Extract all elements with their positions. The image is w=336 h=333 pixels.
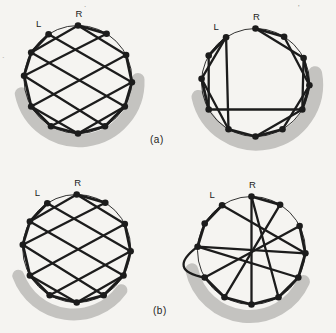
- graph-node-6: [73, 299, 80, 306]
- graph-node-10: [28, 49, 35, 56]
- graph-node-3: [306, 82, 313, 89]
- graph-edge: [298, 253, 305, 277]
- graph-node-4: [299, 106, 306, 113]
- graph-edge: [252, 297, 279, 304]
- graph-edge: [226, 37, 228, 129]
- graph-node-9: [194, 243, 201, 250]
- label-left: L: [35, 187, 40, 198]
- graph-node-4: [295, 274, 302, 281]
- graph-node-7: [46, 292, 53, 299]
- graph-node-11: [219, 202, 226, 209]
- graph-edge: [77, 195, 106, 203]
- graph-node-7: [225, 126, 232, 133]
- graph-node-8: [201, 274, 208, 281]
- graph-node-2: [300, 55, 307, 62]
- graph-node-6: [248, 301, 255, 308]
- graph-node-8: [27, 272, 34, 279]
- graph-node-11: [44, 200, 51, 207]
- graph-node-10: [27, 218, 34, 225]
- graph-node-0: [73, 191, 80, 198]
- graph-node-8: [28, 103, 35, 110]
- graph-node-9: [198, 75, 205, 82]
- label-right: R: [74, 177, 81, 188]
- graph-node-1: [103, 30, 110, 37]
- graph-node-6: [252, 133, 259, 140]
- graph-edge: [252, 197, 281, 205]
- graph-node-9: [20, 241, 27, 248]
- graph-node-5: [275, 294, 282, 301]
- graph-node-9: [21, 72, 28, 79]
- graph-node-1: [277, 201, 284, 208]
- scan-artifact: ': [298, 3, 300, 12]
- graph-node-1: [102, 199, 109, 206]
- scan-artifact: .: [84, 0, 86, 9]
- caption-b: (b): [153, 305, 167, 316]
- graph-node-5: [279, 126, 286, 133]
- graph-node-3: [129, 79, 136, 86]
- graph-a-right: LR: [198, 11, 316, 144]
- figure: LRLRLRLR'`. (a) (b): [0, 0, 336, 333]
- graph-edge: [78, 26, 107, 34]
- label-left: L: [213, 21, 218, 32]
- graph-node-3: [302, 250, 309, 257]
- label-right: R: [249, 179, 256, 190]
- graph-b-left: LR: [18, 177, 134, 315]
- graph-edge: [256, 29, 285, 37]
- graph-edge: [256, 29, 304, 59]
- graph-node-2: [296, 223, 303, 230]
- label-right: R: [253, 11, 260, 22]
- graph-node-5: [102, 123, 109, 130]
- graph-edge: [77, 195, 125, 225]
- graph-edge: [225, 297, 252, 304]
- graph-node-8: [205, 106, 212, 113]
- label-left: L: [209, 189, 214, 200]
- graph-node-5: [100, 292, 107, 299]
- graph-node-7: [221, 294, 228, 301]
- graph-node-1: [281, 33, 288, 40]
- graph-node-6: [75, 130, 82, 137]
- graph-edge: [302, 58, 303, 110]
- graph-edge: [205, 205, 222, 223]
- graph-edge: [78, 26, 126, 56]
- graph-figure-canvas: LRLRLRLR'`.: [0, 0, 336, 333]
- label-right: R: [76, 8, 83, 19]
- caption-a: (a): [150, 134, 164, 145]
- graph-a-left: LR: [21, 8, 138, 141]
- scan-artifact: `: [2, 55, 5, 64]
- graph-node-10: [201, 220, 208, 227]
- graph-node-0: [252, 25, 259, 32]
- graph-edge: [202, 37, 227, 78]
- graph-node-4: [122, 103, 129, 110]
- graph-node-3: [127, 248, 134, 255]
- graph-node-0: [248, 193, 255, 200]
- shade-arc: [192, 270, 304, 317]
- graph-node-7: [48, 123, 55, 130]
- graph-node-0: [75, 22, 82, 29]
- graph-node-2: [122, 221, 129, 228]
- graph-edge: [198, 224, 205, 247]
- graph-node-11: [223, 34, 230, 41]
- graph-node-4: [120, 272, 127, 279]
- graph-b-right: LR: [184, 179, 309, 317]
- graph-node-2: [123, 52, 130, 59]
- graph-node-10: [205, 52, 212, 59]
- label-left: L: [36, 18, 41, 29]
- graph-node-11: [45, 31, 52, 38]
